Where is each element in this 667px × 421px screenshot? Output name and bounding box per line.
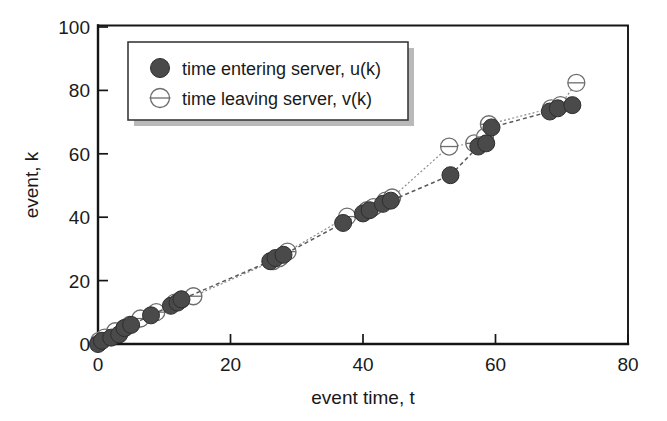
y-tick-label-20: 20 [69, 271, 90, 292]
y-tick-label-100: 100 [58, 17, 90, 38]
x-tick-label-40: 40 [352, 354, 373, 375]
legend-entry-u: time entering server, u(k) [151, 59, 382, 80]
legend-label-v: time leaving server, v(k) [182, 89, 372, 109]
data-point-u [564, 97, 581, 114]
x-tick-label-80: 80 [617, 354, 638, 375]
data-point-u [123, 316, 140, 333]
legend-label-u: time entering server, u(k) [182, 59, 381, 79]
filled-circle-icon [151, 59, 170, 78]
scatter-plot-canvas: 100 80 60 40 20 0 0 20 40 60 80 event ti… [0, 0, 667, 421]
x-tick-marks [98, 334, 628, 344]
x-axis-title: event time, t [311, 387, 415, 408]
data-point-u [478, 135, 495, 152]
data-point-u [143, 307, 160, 324]
x-tick-label-20: 20 [220, 354, 241, 375]
y-tick-label-0: 0 [79, 334, 90, 355]
data-point-u [549, 100, 566, 117]
x-tick-labels: 0 20 40 60 80 [93, 354, 639, 375]
chart-figure: 100 80 60 40 20 0 0 20 40 60 80 event ti… [0, 0, 667, 421]
data-point-u [173, 291, 190, 308]
x-tick-label-60: 60 [485, 354, 506, 375]
y-tick-marks [98, 27, 108, 344]
data-point-u [335, 214, 352, 231]
x-tick-label-0: 0 [93, 354, 104, 375]
y-tick-labels: 100 80 60 40 20 0 [58, 17, 90, 355]
y-tick-label-60: 60 [69, 144, 90, 165]
data-point-u [275, 246, 292, 263]
y-axis-title: event, k [21, 151, 42, 218]
legend: time entering server, u(k) time leaving … [128, 42, 414, 126]
y-tick-label-80: 80 [69, 80, 90, 101]
data-point-u [483, 119, 500, 136]
legend-entry-v: time leaving server, v(k) [150, 89, 373, 110]
y-tick-label-40: 40 [69, 207, 90, 228]
data-point-u [442, 167, 459, 184]
data-point-u [382, 192, 399, 209]
